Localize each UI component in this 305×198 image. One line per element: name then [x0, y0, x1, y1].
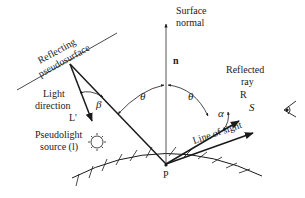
- normal-vector-label: n: [173, 55, 179, 66]
- surface-normal-label-1: Surface: [176, 5, 207, 16]
- beta-label: β: [95, 98, 102, 110]
- point-p: P: [163, 163, 169, 180]
- alpha-label: α: [218, 107, 224, 119]
- line-of-sight: S Line of sight: [166, 101, 255, 164]
- pseudolight-label-2: source (l): [40, 141, 78, 153]
- eye-icon: [284, 101, 296, 117]
- sight-vector-label: S: [249, 101, 255, 113]
- reflected-vector-label: R: [240, 89, 247, 100]
- theta-left-label: θ: [140, 90, 146, 102]
- reflected-label-2: ray: [241, 76, 254, 87]
- pseudolight-label-1: Pseudolight: [35, 129, 82, 140]
- light-label-1: Light: [43, 88, 65, 99]
- pseudolight-source: Pseudolight source (l): [35, 129, 106, 153]
- surface-hatching: [76, 147, 250, 186]
- angle-arcs: [80, 85, 228, 130]
- reflected-ray: Reflected ray R: [166, 64, 264, 164]
- reflected-label-1: Reflected: [226, 64, 264, 75]
- reflecting-surface: [72, 147, 262, 186]
- surface-normal-label-2: normal: [176, 17, 205, 28]
- line-of-sight-label: Line of sight: [191, 119, 243, 146]
- light-vector-label: L': [69, 112, 77, 123]
- point-label: P: [163, 169, 169, 180]
- light-label-2: direction: [35, 100, 71, 111]
- reflection-diagram: Surface normal n Reflecting pseudosurfac…: [0, 0, 305, 198]
- reflecting-pseudosurface: Reflecting pseudosurface: [17, 31, 117, 90]
- theta-right-label: θ: [188, 90, 194, 102]
- sun-icon: [88, 133, 106, 151]
